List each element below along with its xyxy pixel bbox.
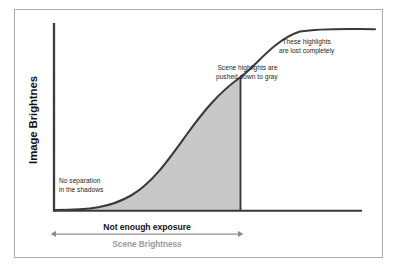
annotation-shadows: No separation in the shadows <box>59 177 103 194</box>
annotation-shadows-line1: No separation <box>59 177 103 186</box>
annotation-gray-line2: pushed down to gray <box>216 73 278 82</box>
annotation-shadows-line2: in the shadows <box>59 186 103 195</box>
figure-container: Image Brightnes No separation in the sha… <box>0 0 397 269</box>
plot-svg <box>0 0 397 269</box>
x-axis-label: Scene Brightness <box>112 239 181 249</box>
annotation-lost-line2: are lost completely <box>279 47 334 56</box>
annotation-lost-highlights: These highlights are lost completely <box>279 38 334 55</box>
annotation-lost-line1: These highlights <box>279 38 334 47</box>
y-axis-label: Image Brightnes <box>27 76 39 164</box>
exposure-range-label: Not enough exposure <box>103 222 190 232</box>
annotation-gray-line1: Scene highlights are <box>216 64 278 73</box>
annotation-gray: Scene highlights are pushed down to gray <box>216 64 278 81</box>
